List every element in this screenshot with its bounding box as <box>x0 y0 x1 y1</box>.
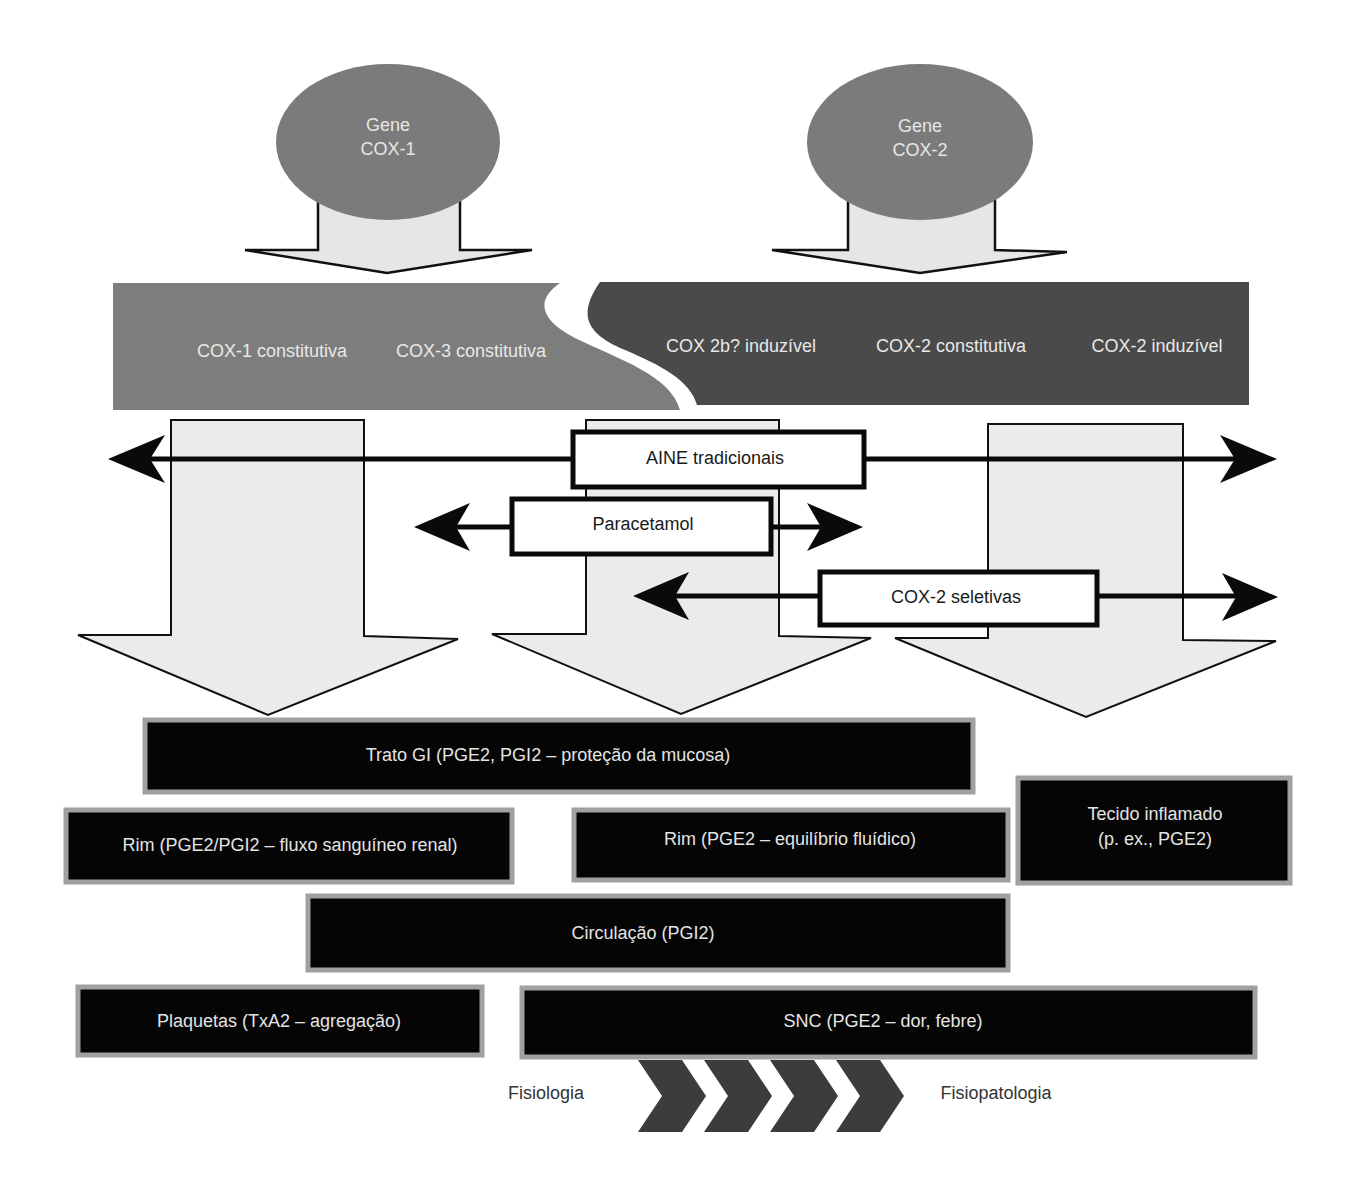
gene-cox1-label-line1: Gene <box>366 115 410 135</box>
tissue-plaquetas-label: Plaquetas (TxA2 – agregação) <box>157 1011 401 1031</box>
isoform-bands: COX-1 constitutiva COX-3 constitutiva CO… <box>113 282 1249 410</box>
gene-cox2-label-line1: Gene <box>898 116 942 136</box>
isoform-cox1-constitutiva: COX-1 constitutiva <box>197 341 348 361</box>
tissue-circulacao-label: Circulação (PGI2) <box>571 923 714 943</box>
gene-cox1-label-line2: COX-1 <box>360 139 415 159</box>
physiology-axis: Fisiologia Fisiopatologia <box>508 1060 1053 1132</box>
isoform-cox2-constitutiva: COX-2 constitutiva <box>876 336 1027 356</box>
isoform-cox3-constitutiva: COX-3 constitutiva <box>396 341 547 361</box>
chevron-arrow-icon <box>638 1060 706 1132</box>
axis-right-label: Fisiopatologia <box>940 1083 1052 1103</box>
chevron-arrow-icon <box>836 1060 904 1132</box>
tissue-snc-label: SNC (PGE2 – dor, febre) <box>783 1011 982 1031</box>
gene-cox2-label-line2: COX-2 <box>892 140 947 160</box>
cox-pathway-diagram: Gene COX-1 Gene COX-2 COX-1 constitutiva… <box>0 0 1352 1195</box>
isoform-cox2-induzivel: COX-2 induzível <box>1091 336 1222 356</box>
isoform-cox2b-induzivel: COX 2b? induzível <box>666 336 816 356</box>
gene-cox2-group: Gene COX-2 <box>772 64 1067 273</box>
tissue-rim2-label: Rim (PGE2 – equilíbrio fluídico) <box>664 829 916 849</box>
cox2sel-label: COX-2 seletivas <box>891 587 1021 607</box>
axis-left-label: Fisiologia <box>508 1083 585 1103</box>
tissue-boxes: Trato GI (PGE2, PGI2 – proteção da mucos… <box>66 720 1290 1057</box>
tissue-inflamado-label-line1: Tecido inflamado <box>1087 804 1222 824</box>
tissue-gi-label: Trato GI (PGE2, PGI2 – proteção da mucos… <box>366 745 731 765</box>
chevron-arrow-icon <box>704 1060 772 1132</box>
tissue-inflamado-label-line2: (p. ex., PGE2) <box>1098 829 1212 849</box>
chevron-arrow-icon <box>770 1060 838 1132</box>
aine-label: AINE tradicionais <box>646 448 784 468</box>
paracetamol-label: Paracetamol <box>592 514 693 534</box>
gene-cox1-group: Gene COX-1 <box>245 64 532 273</box>
chevron-row <box>638 1060 904 1132</box>
tissue-rim1-label: Rim (PGE2/PGI2 – fluxo sanguíneo renal) <box>122 835 457 855</box>
